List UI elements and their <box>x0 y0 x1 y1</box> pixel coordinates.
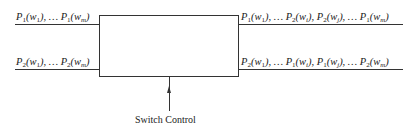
control-line <box>169 77 170 111</box>
input-label-1: P1(w1), … P1(wm) <box>16 11 90 26</box>
switch-box <box>99 15 239 77</box>
control-arrow-icon <box>167 86 171 93</box>
output-label-1: P1(w1), … P2(wi), P2(wj), … P1(wm) <box>241 11 389 26</box>
input-label-2: P2(w1), … P2(wm) <box>16 56 90 71</box>
switch-control-label: Switch Control <box>135 114 196 125</box>
output-label-2: P2(w1), … P1(wi), P1(wj), … P2(wm) <box>241 56 389 71</box>
